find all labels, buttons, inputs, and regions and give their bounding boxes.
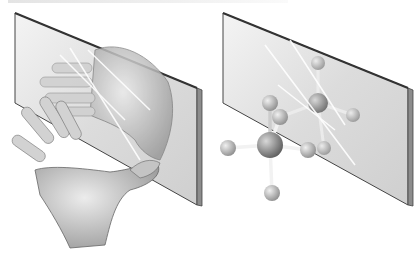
carbon-atom	[257, 132, 283, 158]
hands-mirror-panel	[0, 0, 210, 253]
hydrogen-atom	[220, 140, 236, 156]
hydrogen-atom	[262, 95, 278, 111]
hydrogen-atom	[300, 142, 316, 158]
molecule-mirror-panel	[210, 0, 420, 253]
molecule-illustration	[210, 0, 420, 253]
hydrogen-atom	[272, 109, 288, 125]
hands-illustration	[0, 0, 210, 253]
hydrogen-atom	[264, 185, 280, 201]
